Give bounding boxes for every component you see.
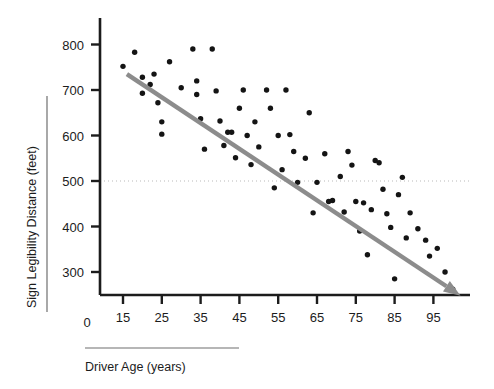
data-point [303,156,308,161]
data-point [202,146,207,151]
data-point [415,226,420,231]
data-point [151,71,156,76]
data-point [194,92,199,97]
origin-tick-label: 0 [83,315,90,330]
data-point [140,90,145,95]
data-point [310,210,315,215]
data-point [287,132,292,137]
data-point [256,144,261,149]
data-point [322,151,327,156]
data-point [427,253,432,258]
data-point [213,88,218,93]
data-point [396,192,401,197]
data-point [229,130,234,135]
data-point [307,110,312,115]
x-axis-tick-label: 75 [349,310,363,325]
data-point [279,167,284,172]
data-point [159,119,164,124]
data-point [353,199,358,204]
data-point [244,133,249,138]
trendline-group [127,74,461,296]
data-point [233,155,238,160]
data-point [264,87,269,92]
y-axis-title: Sign Legibility Distance (feet) [25,146,39,308]
x-axis-group: 152535455565758595 [100,295,470,325]
y-axis-group: 300400500600700800 [62,18,100,295]
data-point [423,237,428,242]
data-point [407,210,412,215]
data-point [272,185,277,190]
trend-line [127,74,447,286]
x-axis-title: Driver Age (years) [85,360,186,374]
y-axis-tick-label: 500 [62,174,84,189]
data-point [380,186,385,191]
data-point [167,59,172,64]
data-point [190,46,195,51]
data-point [140,75,145,80]
data-point [291,149,296,154]
scatter-plot-figure: Sign Legibility Distance (feet) Driver A… [0,0,494,389]
data-point [330,198,335,203]
data-point [392,276,397,281]
data-point [241,87,246,92]
data-point [341,209,346,214]
data-point [338,174,343,179]
x-axis-tick-label: 65 [310,310,324,325]
data-point [384,211,389,216]
data-points-group [120,46,455,292]
data-point [252,119,257,124]
x-axis-tick-label: 35 [193,310,207,325]
y-axis-tick-label: 700 [62,83,84,98]
x-axis-tick-label: 85 [387,310,401,325]
y-axis-tick-label: 400 [62,220,84,235]
chart-page: Sign Legibility Distance (feet) Driver A… [0,0,494,389]
x-axis-tick-label: 95 [426,310,440,325]
data-point [435,246,440,251]
x-axis-tick-label: 25 [155,310,169,325]
data-point [194,78,199,83]
data-point [268,106,273,111]
data-point [132,50,137,55]
data-point [442,269,447,274]
y-axis-tick-label: 800 [62,38,84,53]
data-point [217,118,222,123]
data-point [120,64,125,69]
data-point [237,106,242,111]
data-point [210,46,215,51]
data-point [388,225,393,230]
data-point [361,200,366,205]
x-axis-tick-label: 55 [271,310,285,325]
data-point [155,100,160,105]
data-point [314,180,319,185]
x-axis-tick-label: 15 [116,310,130,325]
data-point [349,162,354,167]
data-point [221,143,226,148]
data-point [365,252,370,257]
data-point [404,235,409,240]
data-point [248,162,253,167]
data-point [179,85,184,90]
y-axis-tick-label: 600 [62,129,84,144]
data-point [276,133,281,138]
data-point [376,160,381,165]
data-point [283,87,288,92]
x-axis-tick-label: 45 [232,310,246,325]
y-axis-tick-label: 300 [62,265,84,280]
data-point [369,207,374,212]
data-point [400,175,405,180]
data-point [159,131,164,136]
data-point [345,149,350,154]
